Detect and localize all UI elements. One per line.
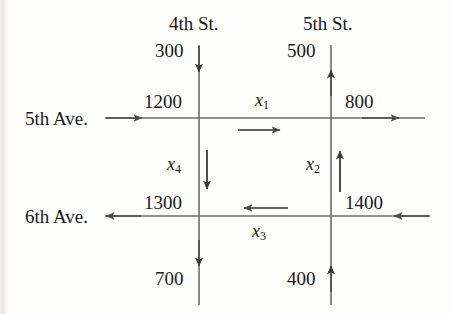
variable-x2-subscript: 2 [314, 162, 320, 176]
avenue-label-6th-ave: 6th Ave. [25, 207, 88, 226]
variable-x4-base: x [167, 154, 175, 174]
street-network-graphic [0, 0, 451, 314]
variable-x1-subscript: 1 [263, 98, 269, 112]
street-label-4th-st: 4th St. [169, 14, 219, 33]
flow-value-1200: 1200 [144, 92, 182, 111]
flow-value-1400: 1400 [345, 193, 383, 212]
variable-label-x3: x3 [252, 222, 266, 240]
variable-x4-subscript: 4 [175, 162, 181, 176]
variable-x1-base: x [255, 90, 263, 110]
avenue-label-5th-ave: 5th Ave. [25, 109, 88, 128]
variable-label-x4: x4 [167, 155, 181, 173]
variable-label-x1: x1 [255, 91, 269, 109]
variable-x3-subscript: 3 [260, 229, 266, 243]
variable-label-x2: x2 [306, 155, 320, 173]
variable-x3-base: x [252, 221, 260, 241]
flow-value-300: 300 [155, 41, 184, 60]
street-label-5th-st: 5th St. [303, 14, 353, 33]
flow-value-1300: 1300 [144, 193, 182, 212]
flow-value-500: 500 [287, 41, 316, 60]
traffic-flow-diagram-figure: 4th St. 5th St. 5th Ave. 6th Ave. 300 50… [0, 0, 451, 314]
flow-value-400: 400 [287, 269, 316, 288]
flow-value-800: 800 [345, 92, 374, 111]
flow-value-700: 700 [155, 269, 184, 288]
variable-x2-base: x [306, 154, 314, 174]
